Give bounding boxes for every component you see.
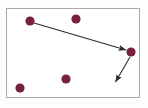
diagram-canvas — [0, 0, 148, 108]
node-dot-p3 — [126, 47, 135, 56]
node-dot-p2 — [71, 14, 80, 23]
node-group — [15, 14, 135, 92]
arrow-p1-to-p3 — [34, 23, 126, 50]
diagram-figure — [0, 0, 148, 108]
node-dot-p5 — [15, 83, 24, 92]
node-dot-p4 — [61, 74, 70, 83]
arrow-p3-outgoing — [116, 57, 131, 82]
node-dot-p1 — [25, 16, 34, 25]
arrow-group — [34, 23, 130, 82]
